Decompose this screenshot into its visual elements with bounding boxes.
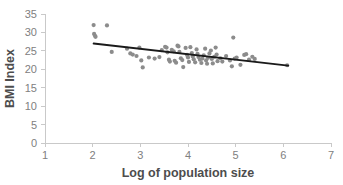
data-point <box>164 45 168 49</box>
data-point <box>205 62 209 66</box>
y-tick-label: 15 <box>25 82 37 94</box>
y-axis-title: BMI Index <box>3 49 17 108</box>
data-point <box>187 60 191 64</box>
data-point <box>110 50 114 54</box>
data-point <box>203 47 207 51</box>
y-tick-label: 10 <box>25 100 37 112</box>
x-tick-label: 6 <box>280 149 286 161</box>
y-tick-label: 20 <box>25 63 37 75</box>
data-point <box>194 47 198 51</box>
data-point <box>253 57 257 61</box>
chart-plot-area: 051015202530351234567Log of population s… <box>0 0 343 185</box>
data-point <box>105 23 109 27</box>
data-point <box>153 57 157 61</box>
data-point <box>184 46 188 50</box>
data-point <box>180 58 184 62</box>
data-point <box>93 35 97 39</box>
scatter-chart-figure: 051015202530351234567Log of population s… <box>0 0 343 185</box>
data-point <box>141 65 145 69</box>
data-point <box>238 63 242 67</box>
data-point <box>220 59 224 63</box>
data-point <box>231 35 235 39</box>
data-point <box>188 45 192 49</box>
data-point <box>174 61 178 65</box>
data-point <box>209 48 213 52</box>
x-tick-label: 1 <box>42 149 48 161</box>
data-point <box>157 55 161 59</box>
y-tick-label: 25 <box>25 45 37 57</box>
x-tick-label: 4 <box>185 149 191 161</box>
data-point <box>186 55 190 59</box>
data-point <box>147 55 151 59</box>
data-point <box>134 54 138 58</box>
data-point <box>244 52 248 56</box>
data-point <box>181 65 185 69</box>
data-point <box>131 52 135 56</box>
data-point <box>199 61 203 65</box>
y-tick-label: 35 <box>25 8 37 20</box>
data-point <box>92 23 96 27</box>
x-tick-label: 7 <box>328 149 334 161</box>
data-point <box>215 52 219 56</box>
data-point <box>214 45 218 49</box>
x-axis-title: Log of population size <box>122 166 255 180</box>
data-point <box>139 58 143 62</box>
x-tick-label: 3 <box>137 149 143 161</box>
y-tick-label: 5 <box>31 119 37 131</box>
x-tick-label: 5 <box>233 149 239 161</box>
data-point <box>193 60 197 64</box>
data-point <box>230 64 234 68</box>
x-tick-label: 2 <box>90 149 96 161</box>
data-point <box>176 44 180 48</box>
data-point <box>211 61 215 65</box>
data-point <box>168 59 172 63</box>
y-tick-label: 30 <box>25 26 37 38</box>
y-tick-label: 0 <box>31 137 37 149</box>
